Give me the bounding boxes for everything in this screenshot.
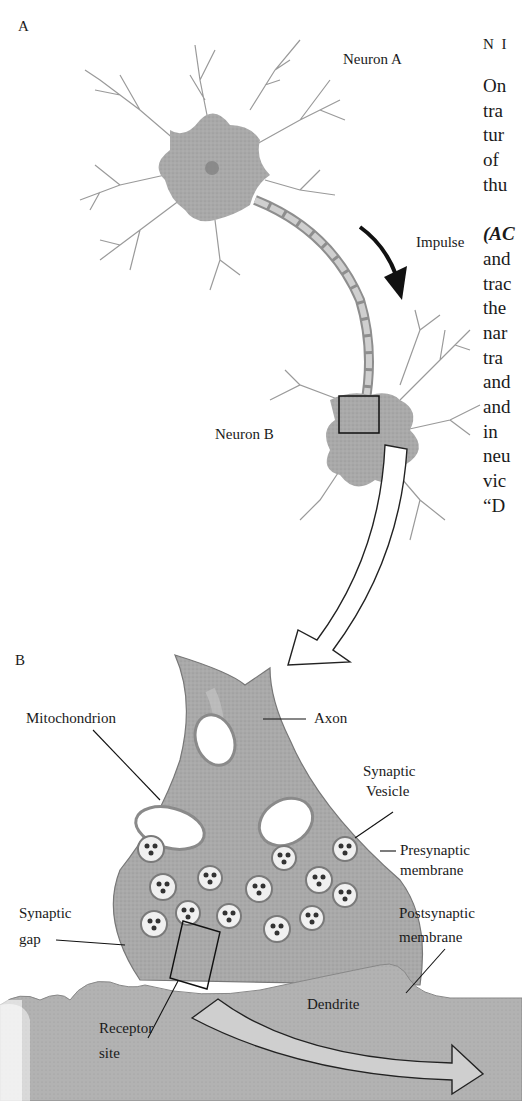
label-synaptic-vesicle-line1: Synaptic xyxy=(363,763,416,780)
text-line: vic xyxy=(483,469,515,494)
impulse-arrow-icon xyxy=(360,227,407,300)
text-line: and xyxy=(483,247,515,272)
nucleus-icon xyxy=(205,161,219,175)
text-line: On xyxy=(483,74,515,99)
text-line: trac xyxy=(483,272,515,297)
text-line: nar xyxy=(483,321,515,346)
text-line: (AC xyxy=(483,222,515,247)
text-line: tur xyxy=(483,123,515,148)
section-heading-fragment: N I xyxy=(483,36,509,53)
panel-b-label: B xyxy=(15,652,25,669)
text-line: and xyxy=(483,370,515,395)
neuron-a xyxy=(80,40,369,405)
panel-a-label: A xyxy=(18,18,29,35)
text-line: “D xyxy=(483,494,515,519)
label-presynaptic-line2: membrane xyxy=(400,862,463,879)
label-mitochondrion: Mitochondrion xyxy=(26,710,116,727)
label-postsynaptic-line2: membrane xyxy=(399,929,462,946)
text-line xyxy=(483,197,515,222)
label-synaptic-vesicle-line2: Vesicle xyxy=(366,783,409,800)
label-postsynaptic-line1: Postsynaptic xyxy=(399,905,475,922)
label-synaptic-gap-line2: gap xyxy=(19,931,41,948)
label-impulse: Impulse xyxy=(416,234,464,251)
label-axon: Axon xyxy=(314,710,347,727)
text-line: neu xyxy=(483,444,515,469)
text-line: tra xyxy=(483,346,515,371)
neuron-b xyxy=(270,310,480,540)
label-presynaptic-line1: Presynaptic xyxy=(400,842,470,859)
text-line: thu xyxy=(483,173,515,198)
text-line: of xyxy=(483,148,515,173)
label-neuron-b: Neuron B xyxy=(215,426,274,443)
label-synaptic-gap-line1: Synaptic xyxy=(19,905,72,922)
label-dendrite: Dendrite xyxy=(307,996,359,1013)
axon-terminal xyxy=(113,655,422,985)
text-line: tra xyxy=(483,99,515,124)
body-text-column: On tra tur of thu (AC and trac the nar t… xyxy=(483,74,515,518)
label-neuron-a: Neuron A xyxy=(343,51,402,68)
label-receptor-site-line1: Receptor xyxy=(99,1020,153,1037)
text-line: the xyxy=(483,296,515,321)
text-line: in xyxy=(483,420,515,445)
label-receptor-site-line2: site xyxy=(99,1045,120,1062)
text-line: and xyxy=(483,395,515,420)
